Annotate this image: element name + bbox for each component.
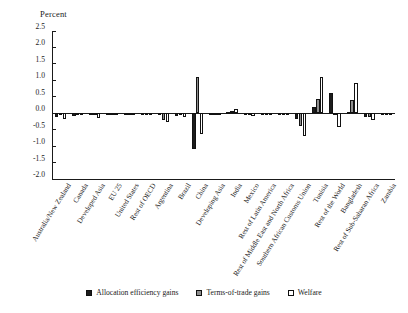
legend-item: Welfare — [288, 288, 322, 297]
x-axis-label: Australia/New Zealand — [30, 182, 72, 243]
x-axis-label: Brazil — [176, 182, 192, 201]
legend-item: Terms-of-trade gains — [196, 288, 269, 297]
legend-item: Allocation efficiency gains — [86, 288, 178, 297]
x-axis-label: Zambia — [380, 182, 398, 205]
legend-label: Terms-of-trade gains — [206, 288, 269, 297]
x-axis-labels: Australia/New ZealandCanadaDeveloped Asi… — [0, 0, 408, 313]
x-axis-label: India — [229, 182, 244, 199]
x-axis-label: China — [194, 182, 210, 201]
chart-figure: Percent 2.52.01.51.00.50.0-0.5-1.0-1.5-2… — [0, 0, 408, 313]
legend-label: Allocation efficiency gains — [96, 288, 178, 297]
legend-swatch-tot — [196, 290, 202, 296]
x-axis-label: EU 25 — [107, 182, 124, 202]
legend-swatch-alloc — [86, 290, 92, 296]
legend-label: Welfare — [298, 288, 322, 297]
chart-legend: Allocation efficiency gainsTerms-of-trad… — [0, 288, 408, 297]
legend-swatch-welf — [288, 290, 294, 296]
